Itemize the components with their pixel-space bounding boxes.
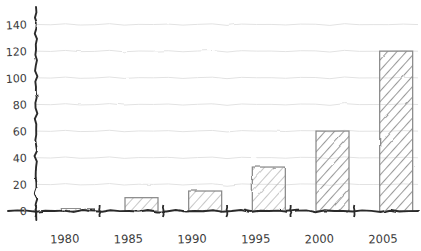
axes-group: [8, 7, 418, 220]
y-tick-label: 100: [6, 72, 28, 86]
x-tick-label: 2000: [304, 231, 334, 246]
y-tick-label: 60: [12, 125, 27, 139]
y-tick-label: 40: [12, 152, 27, 166]
x-axis-labels: 198019851990199520002005: [50, 231, 398, 246]
bar-chart: 020406080100120140 198019851990199520002…: [0, 0, 421, 251]
y-tick-label: 20: [12, 178, 27, 192]
x-tick-label: 2005: [368, 231, 398, 246]
bar-1985: [125, 198, 158, 211]
x-tick-label: 1985: [113, 231, 143, 246]
y-tick-label: 0: [19, 205, 27, 218]
bar-2005: [380, 51, 413, 211]
y-tick-label: 120: [6, 45, 28, 59]
bar-1995: [252, 167, 285, 211]
y-axis-labels: 020406080100120140: [6, 19, 28, 219]
x-tick-label: 1980: [50, 231, 80, 246]
chart-container: 020406080100120140 198019851990199520002…: [0, 0, 421, 251]
x-tick-label: 1990: [177, 231, 207, 246]
y-tick-label: 140: [6, 19, 28, 33]
gridlines: [36, 24, 418, 186]
bar-2000: [316, 131, 349, 211]
x-tick-label: 1995: [241, 231, 271, 246]
y-tick-label: 80: [12, 98, 27, 112]
bar-1990: [189, 191, 222, 211]
